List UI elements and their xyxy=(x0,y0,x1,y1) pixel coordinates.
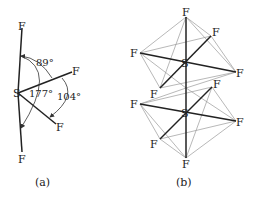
angle-label-177: 177° xyxy=(29,88,53,99)
atom-f-bottom: F xyxy=(182,158,190,171)
atom-s: S xyxy=(13,87,21,100)
panel-a: F F F F S 89° 177° 104° (a) xyxy=(13,20,81,189)
atom-f-equatorial-upper: F xyxy=(72,65,80,78)
bond-axial-bottom xyxy=(18,93,22,152)
diagram-canvas: F F F F S 89° 177° 104° (a) xyxy=(0,0,258,200)
atom-s-upper: S xyxy=(181,57,189,70)
atom-f-upper-back: F xyxy=(212,26,220,39)
atom-f-top: F xyxy=(182,6,190,19)
atom-f-lower-right: F xyxy=(236,116,244,129)
angle-label-104: 104° xyxy=(57,91,81,102)
panel-b: F F F F F S F F F F F S (b) xyxy=(130,6,244,189)
angle-label-89: 89° xyxy=(36,57,54,68)
caption-a: (a) xyxy=(35,176,50,189)
caption-b: (b) xyxy=(176,176,192,189)
bond-axial-top xyxy=(18,28,22,93)
upper-octahedron-edges xyxy=(140,17,236,88)
atom-f-upper-front: F xyxy=(150,88,158,101)
atom-s-lower: S xyxy=(181,107,189,120)
atom-f-lower-back: F xyxy=(213,78,221,91)
atom-f-upper-right: F xyxy=(236,67,244,80)
atom-f-top: F xyxy=(18,20,26,33)
atom-f-bottom: F xyxy=(18,153,26,166)
atom-f-equatorial-lower: F xyxy=(56,121,64,134)
atom-f-upper-left: F xyxy=(130,47,138,60)
atom-f-lower-front: F xyxy=(150,138,158,151)
atom-f-lower-left: F xyxy=(130,98,138,111)
